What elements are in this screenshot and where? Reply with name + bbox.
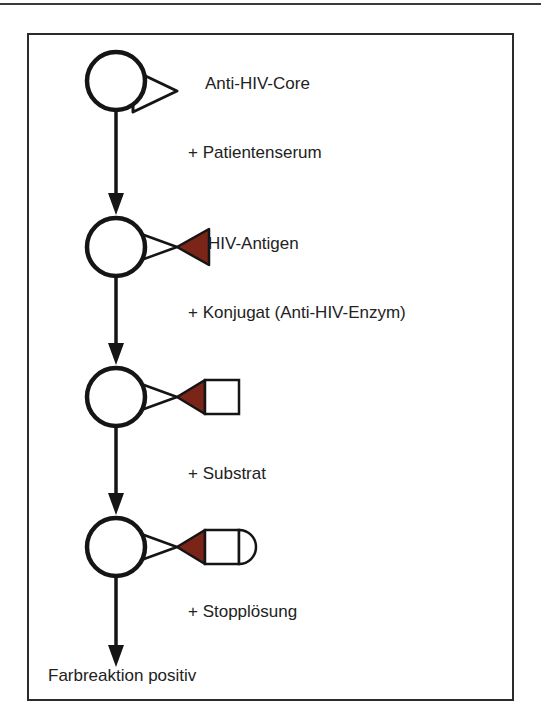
label-add-patientenserum: + Patientenserum — [188, 143, 322, 163]
assay-flow-svg — [29, 35, 512, 699]
antigen-triangle-icon — [177, 229, 209, 265]
label-add-stopploesung: + Stopplösung — [188, 602, 297, 622]
colour-product-cap-icon — [239, 530, 256, 564]
shape-hiv-antigen-conjugate — [87, 368, 239, 426]
flow-arrow-3 — [108, 428, 124, 515]
label-hiv-antigen: HIV-Antigen — [208, 234, 299, 254]
flow-arrow-4 — [108, 578, 124, 667]
shape-hiv-antigen-conjugate-product — [87, 518, 256, 576]
antigen-triangle-icon — [177, 380, 205, 414]
core-circle-icon — [87, 368, 145, 426]
core-circle-icon — [87, 52, 145, 110]
shape-anti-hiv-core — [87, 52, 177, 112]
flow-arrow-1 — [108, 112, 124, 215]
label-farbreaktion-positiv: Farbreaktion positiv — [48, 666, 196, 686]
flow-arrow-2 — [108, 278, 124, 365]
antigen-triangle-icon — [177, 530, 205, 564]
core-circle-icon — [87, 218, 145, 276]
shape-hiv-antigen — [87, 218, 209, 276]
page-canvas: Anti-HIV-Core + Patientenserum HIV-Antig… — [0, 0, 541, 721]
enzyme-square-icon — [205, 530, 239, 564]
label-anti-hiv-core: Anti-HIV-Core — [205, 74, 310, 94]
figure-frame — [27, 33, 514, 701]
enzyme-square-icon — [205, 380, 239, 414]
core-circle-icon — [87, 518, 145, 576]
label-add-substrat: + Substrat — [188, 464, 266, 484]
label-add-konjugat: + Konjugat (Anti-HIV-Enzym) — [188, 303, 406, 323]
page-top-rule — [0, 3, 541, 5]
